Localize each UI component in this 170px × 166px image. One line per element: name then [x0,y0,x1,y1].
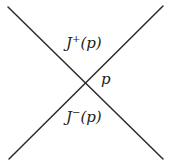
past-argument: (p) [80,108,101,126]
future-argument: (p) [80,34,101,52]
light-cone-diagram: J+(p) p J−(p) [0,0,170,166]
causal-future-label: J+(p) [66,36,102,51]
point-p-label: p [101,72,111,87]
light-cone-lines [0,0,170,166]
causal-past-label: J−(p) [66,110,102,125]
